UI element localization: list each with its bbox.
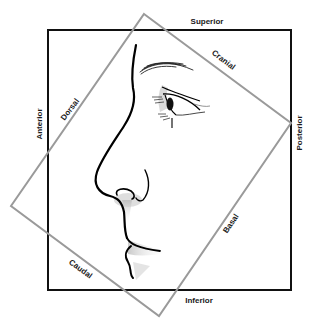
rotated-frame	[11, 14, 291, 316]
anatomical-orientation-diagram: Superior Inferior Anterior Posterior Cra…	[0, 0, 312, 327]
label-basal: Basal	[221, 212, 240, 235]
face-profile-illustration	[96, 45, 210, 280]
label-anterior: Anterior	[35, 108, 44, 139]
label-inferior: Inferior	[185, 296, 213, 305]
label-caudal: Caudal	[67, 257, 94, 280]
label-cranial: Cranial	[210, 48, 237, 72]
lip-shadow	[128, 240, 168, 256]
outer-frame	[48, 30, 291, 290]
label-superior: Superior	[191, 17, 224, 26]
label-posterior: Posterior	[295, 115, 304, 150]
chin-shadow	[133, 262, 150, 280]
eyebrow	[140, 63, 193, 74]
